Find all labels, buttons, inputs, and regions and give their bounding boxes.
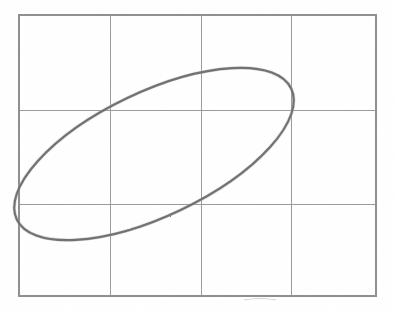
ellipse-grid-figure xyxy=(0,0,395,310)
figure-root xyxy=(0,0,395,310)
figure-background xyxy=(0,0,395,310)
